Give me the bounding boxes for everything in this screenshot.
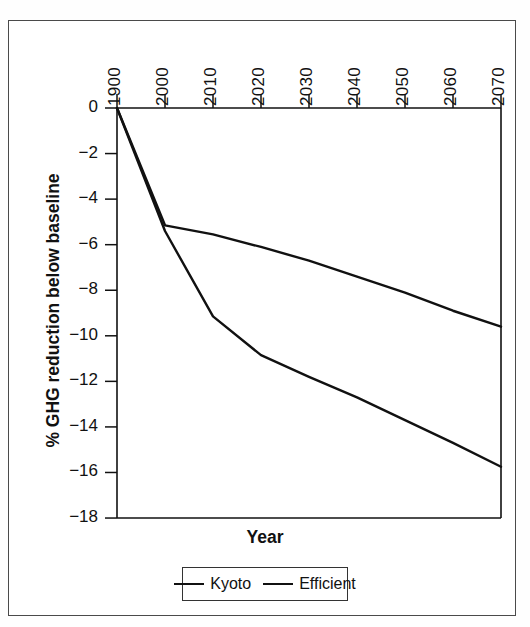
- x-tick-label: 1900: [105, 67, 125, 106]
- figure-container: 190020002010202020302040205020602070 0−2…: [0, 0, 530, 627]
- y-tick-label: −16: [44, 461, 98, 481]
- legend-label: Efficient: [299, 576, 356, 592]
- y-axis-ticks: [105, 108, 117, 518]
- legend-entry-efficient: Efficient: [263, 576, 356, 592]
- x-tick-label: 2000: [153, 67, 173, 106]
- y-axis-title: % GHG reduction below baseline: [43, 161, 64, 461]
- legend-entry-kyoto: Kyoto: [174, 576, 251, 592]
- x-axis-title: Year: [0, 527, 530, 548]
- y-tick-label: 0: [44, 97, 98, 117]
- y-tick-label: −18: [44, 507, 98, 527]
- axes-group: [117, 108, 501, 518]
- x-tick-label: 2030: [297, 67, 317, 106]
- x-tick-label: 2040: [345, 67, 365, 106]
- chart-legend: Kyoto Efficient: [182, 567, 348, 601]
- x-tick-label: 2070: [489, 67, 509, 106]
- legend-line-icon: [263, 583, 293, 585]
- x-tick-label: 2050: [393, 67, 413, 106]
- legend-line-icon: [174, 583, 204, 585]
- data-series-group: [117, 108, 501, 467]
- legend-label: Kyoto: [210, 576, 251, 592]
- x-tick-label: 2060: [441, 67, 461, 106]
- series-line-efficient: [117, 108, 501, 467]
- series-line-kyoto: [117, 108, 501, 327]
- x-tick-label: 2020: [249, 67, 269, 106]
- x-tick-label: 2010: [201, 67, 221, 106]
